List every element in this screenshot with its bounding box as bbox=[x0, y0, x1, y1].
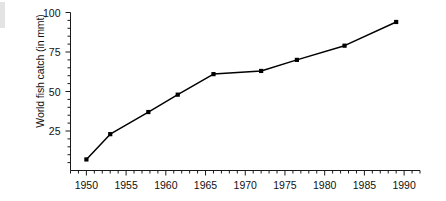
x-axis-ticks bbox=[71, 171, 421, 176]
data-point-marker bbox=[108, 132, 112, 136]
data-point-marker bbox=[394, 20, 398, 24]
data-point-markers bbox=[84, 20, 398, 162]
data-point-marker bbox=[146, 110, 150, 114]
data-series-line bbox=[86, 22, 396, 159]
axis-lines bbox=[71, 13, 421, 171]
data-point-marker bbox=[342, 44, 346, 48]
data-point-marker bbox=[176, 93, 180, 97]
fish-catch-line-chart: World fish catch (in mmt) 255075100 1950… bbox=[0, 0, 446, 201]
plot-area bbox=[0, 0, 446, 201]
data-point-marker bbox=[295, 58, 299, 62]
data-point-marker bbox=[84, 157, 88, 161]
y-axis-ticks bbox=[66, 13, 71, 163]
data-point-marker bbox=[211, 72, 215, 76]
data-point-marker bbox=[259, 69, 263, 73]
